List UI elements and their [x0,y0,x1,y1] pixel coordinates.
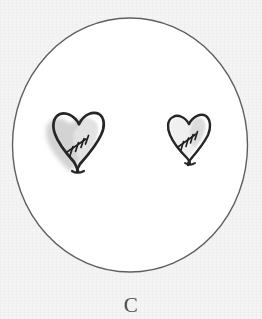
enclosing-circle-group [13,18,248,272]
figure-canvas: C [0,0,262,319]
figure-illustration [0,0,262,319]
enclosing-circle [13,18,248,272]
